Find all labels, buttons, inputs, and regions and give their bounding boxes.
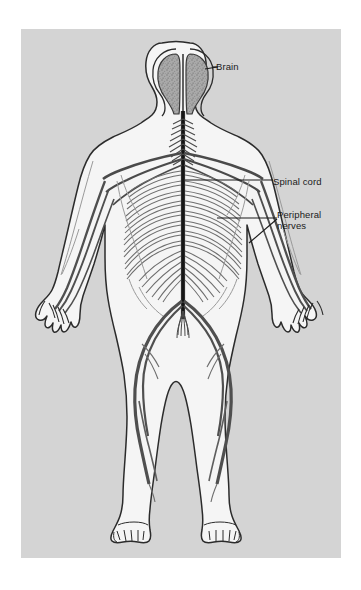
- label-brain: Brain: [216, 61, 239, 72]
- diagram-panel: [21, 29, 341, 558]
- label-peripheral-nerves: Peripheralnerves: [277, 209, 321, 231]
- label-peripheral-nerves-line1: Peripheral: [277, 209, 321, 220]
- label-peripheral-nerves-line2: nerves: [277, 220, 306, 231]
- label-spinal-cord: Spinal cord: [273, 176, 322, 187]
- figure-root: Brain Spinal cord Peripheralnerves: [0, 0, 361, 590]
- nervous-system-illustration: [21, 29, 341, 558]
